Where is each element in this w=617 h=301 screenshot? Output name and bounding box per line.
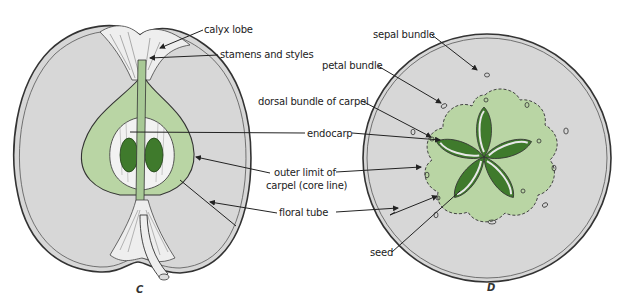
panel-letter-c: C — [136, 284, 143, 295]
apple-anatomy-figure: calyx lobe stamens and styles sepal bund… — [0, 0, 617, 301]
label-petal-bundle: petal bundle — [322, 60, 382, 71]
central-strand — [136, 60, 146, 215]
label-floral-tube: floral tube — [279, 207, 328, 218]
longitudinal-section-c — [14, 26, 251, 280]
seed-c-right — [145, 138, 163, 172]
label-seed: seed — [370, 247, 393, 258]
label-endocarp: endocarp — [307, 128, 352, 139]
seed-c-left — [120, 138, 138, 172]
diagram-drawing — [0, 0, 617, 301]
label-stamens-and-styles: stamens and styles — [220, 49, 313, 60]
panel-letter-d: D — [487, 282, 495, 293]
label-outer-limit-line1: outer limit of — [274, 167, 336, 178]
label-outer-limit-line2: carpel (core line) — [266, 180, 347, 191]
label-calyx-lobe: calyx lobe — [204, 24, 253, 35]
label-sepal-bundle: sepal bundle — [373, 29, 435, 40]
label-dorsal-bundle-of-carpel: dorsal bundle of carpel — [258, 96, 369, 107]
